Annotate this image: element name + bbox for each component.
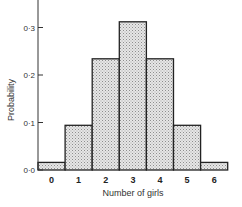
- probability-histogram: 0·00·10·20·3 0123456 Probability Number …: [0, 0, 242, 207]
- y-tick-label: 0·2: [23, 71, 35, 80]
- x-tick-label: 6: [212, 175, 217, 185]
- bar-2: [92, 59, 119, 170]
- bar-0: [38, 162, 65, 170]
- bar-1: [65, 125, 92, 170]
- bars-group: [38, 22, 228, 170]
- y-axis-ticks: 0·00·10·20·3: [23, 24, 43, 176]
- bar-3: [119, 22, 146, 170]
- x-tick-label: 2: [103, 175, 108, 185]
- y-tick-label: 0·1: [23, 119, 35, 128]
- y-tick-label: 0·3: [23, 24, 35, 33]
- x-tick-label: 4: [157, 175, 162, 185]
- x-axis-title: Number of girls: [102, 188, 164, 198]
- x-tick-label: 0: [49, 175, 54, 185]
- y-tick-label: 0·0: [23, 166, 35, 175]
- x-tick-label: 5: [185, 175, 190, 185]
- bar-5: [174, 125, 201, 170]
- bar-4: [146, 59, 173, 170]
- x-axis-category-labels: 0123456: [49, 175, 217, 185]
- bar-6: [201, 162, 228, 170]
- x-tick-label: 3: [130, 175, 135, 185]
- x-tick-label: 1: [76, 175, 81, 185]
- y-axis-title: Probability: [6, 78, 16, 121]
